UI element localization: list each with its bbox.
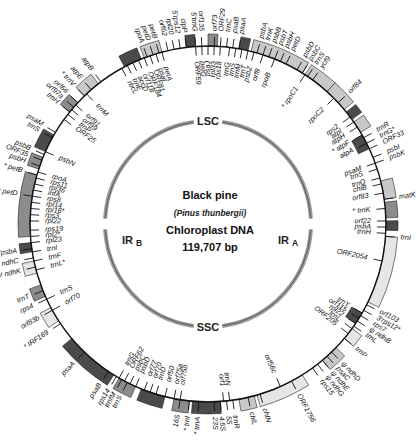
gene-block xyxy=(346,104,361,119)
gene-label: orf83 xyxy=(351,191,369,203)
gene-tick xyxy=(240,49,242,58)
gene-tick xyxy=(328,98,334,104)
gene-tick xyxy=(45,152,53,156)
gene-tick xyxy=(179,39,180,48)
gene-tick xyxy=(39,299,47,303)
gene-block xyxy=(354,115,371,132)
gene-tick xyxy=(122,68,126,76)
gene-label: psaA xyxy=(58,359,77,378)
gene-tick xyxy=(30,236,39,237)
gene-label: orf56c xyxy=(263,353,280,375)
gene-tick xyxy=(33,190,42,192)
gene-tick xyxy=(313,368,318,375)
gene-tick xyxy=(277,378,281,386)
gene-tick xyxy=(32,250,41,251)
region-label-lsc: LSC xyxy=(197,115,219,127)
region-label-ir-a: IRA xyxy=(278,234,298,248)
gene-block xyxy=(18,172,37,238)
gene-tick xyxy=(367,305,375,309)
gene-tick xyxy=(371,178,380,180)
gene-label: chlL xyxy=(248,411,260,426)
gene-label: matK xyxy=(398,190,417,201)
gene-tick xyxy=(76,105,83,111)
gene-tick xyxy=(195,37,196,46)
gene-label: trnH xyxy=(357,227,372,237)
region-arc xyxy=(105,122,194,219)
gene-tick xyxy=(72,110,79,116)
gene-tick xyxy=(346,122,353,127)
ir-a-sub: A xyxy=(292,238,298,248)
gene-tick xyxy=(361,316,369,321)
gene-block xyxy=(386,221,398,231)
gene-block xyxy=(385,201,398,218)
gene-block xyxy=(208,34,218,46)
gene-label: * trnA xyxy=(192,416,202,435)
gene-tick xyxy=(220,402,221,411)
gene-tick xyxy=(35,184,44,186)
gene-tick xyxy=(373,154,381,157)
gene-label: orf73 xyxy=(210,15,220,32)
molecule-type: Chloroplast DNA xyxy=(166,224,254,236)
gene-tick xyxy=(196,46,197,55)
gene-tick xyxy=(376,208,385,209)
gene-tick xyxy=(364,133,372,137)
gene-tick xyxy=(48,128,56,133)
gene-tick xyxy=(36,178,45,180)
gene-tick xyxy=(64,119,71,124)
gene-tick xyxy=(220,37,221,46)
gene-tick xyxy=(174,390,176,399)
gene-label: chlN xyxy=(261,407,274,424)
gene-tick xyxy=(260,55,263,64)
gene-label: trnI xyxy=(400,232,411,242)
gene-tick xyxy=(227,401,228,410)
gene-tick xyxy=(150,384,153,393)
gene-tick xyxy=(112,377,117,385)
organism-common-name: Black pine xyxy=(182,189,237,201)
gene-tick xyxy=(156,386,159,395)
gene-label: * rpoC1 xyxy=(279,85,300,110)
gene-tick xyxy=(300,75,305,83)
gene-label: rpoC2 xyxy=(306,105,326,125)
region-arc xyxy=(105,229,194,326)
gene-tick xyxy=(130,376,134,384)
gene-tick xyxy=(133,63,137,71)
gene-tick xyxy=(127,65,131,73)
gene-label: orf83b xyxy=(19,313,41,331)
gene-tick xyxy=(31,208,40,209)
gene-tick xyxy=(367,139,375,143)
gene-block xyxy=(368,236,398,307)
gene-label: orf1 xyxy=(217,374,227,387)
gene-tick xyxy=(227,38,228,47)
gene-tick xyxy=(150,56,153,65)
gene-tick xyxy=(166,42,168,51)
gene-labels: psbAtrnKpsbBpsbTpsbHpetDpsbDpsbCtrnSycf9… xyxy=(0,8,417,435)
gene-tick xyxy=(271,59,274,67)
gene-tick xyxy=(52,306,60,310)
gene-tick xyxy=(136,378,140,386)
gene-label: atpB xyxy=(80,55,96,72)
gene-tick xyxy=(318,364,324,371)
gene-label: trnR xyxy=(231,414,242,429)
gene-tick xyxy=(350,127,358,132)
gene-tick xyxy=(162,52,164,61)
gene-tick xyxy=(47,295,55,299)
gene-tick xyxy=(373,184,382,186)
region-arc xyxy=(222,122,311,219)
gene-label: * IRF169 xyxy=(22,328,51,351)
gene-label: ORF2054 xyxy=(336,246,368,261)
gene-label: orf84 xyxy=(346,77,364,95)
gene-label: psbN xyxy=(57,153,78,169)
organism-species-name: (Pinus thunbergii) xyxy=(174,208,247,218)
gene-tick xyxy=(144,58,147,66)
gene-label: 16S xyxy=(171,414,182,428)
gene-label: ORF1756 xyxy=(295,392,318,424)
gene-label: rps19 xyxy=(45,224,63,234)
gene-block xyxy=(191,401,221,414)
gene-tick xyxy=(234,48,235,57)
ir-b-sub: B xyxy=(136,238,142,248)
gene-block xyxy=(27,153,43,169)
gene-tick xyxy=(374,193,383,195)
gene-tick xyxy=(367,163,375,166)
chloroplast-genome-map: psbAtrnKpsbBpsbTpsbHpetDpsbDpsbCtrnSycf9… xyxy=(0,0,417,441)
gene-label: 5'trnG xyxy=(189,12,199,32)
